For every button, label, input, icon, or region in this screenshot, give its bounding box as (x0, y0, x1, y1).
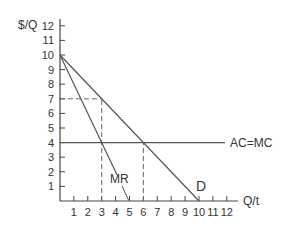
x-tick-label: 4 (113, 206, 119, 218)
ac-mc-label: AC=MC (230, 136, 273, 150)
mr-leader-line (122, 186, 129, 200)
curve-d (60, 55, 199, 201)
y-tick-label: 3 (48, 151, 54, 163)
mr-label: MR (110, 172, 129, 186)
x-tick-label: 3 (99, 206, 105, 218)
y-tick-label: 4 (48, 137, 54, 149)
y-tick-label: 9 (48, 64, 54, 76)
y-tick-label: 8 (48, 78, 54, 90)
dashed-guides (60, 99, 143, 201)
y-tick-label: 5 (48, 122, 54, 134)
x-tick-label: 6 (140, 206, 146, 218)
x-tick-label: 10 (193, 206, 205, 218)
y-tick-label: 6 (48, 107, 54, 119)
demand-label: D (196, 178, 206, 194)
x-tick-label: 7 (154, 206, 160, 218)
y-axis-title: $/Q (18, 18, 37, 32)
x-tick-label: 9 (182, 206, 188, 218)
monopoly-chart: 123456789101112123456789101112 $/Q Q/t A… (0, 0, 284, 228)
y-tick-label: 7 (48, 93, 54, 105)
curve-mr (60, 55, 117, 175)
x-tick-label: 5 (126, 206, 132, 218)
y-tick-label: 12 (42, 20, 54, 32)
y-tick-label: 10 (42, 49, 54, 61)
x-axis-title: Q/t (243, 194, 260, 208)
chart-svg: 123456789101112123456789101112 $/Q Q/t A… (0, 0, 284, 228)
x-tick-label: 1 (71, 206, 77, 218)
x-tick-label: 12 (221, 206, 233, 218)
y-tick-label: 11 (43, 34, 54, 46)
x-tick-label: 8 (168, 206, 174, 218)
y-tick-label: 2 (48, 166, 54, 178)
x-tick-label: 11 (207, 206, 218, 218)
y-tick-label: 1 (48, 180, 54, 192)
x-tick-label: 2 (85, 206, 91, 218)
